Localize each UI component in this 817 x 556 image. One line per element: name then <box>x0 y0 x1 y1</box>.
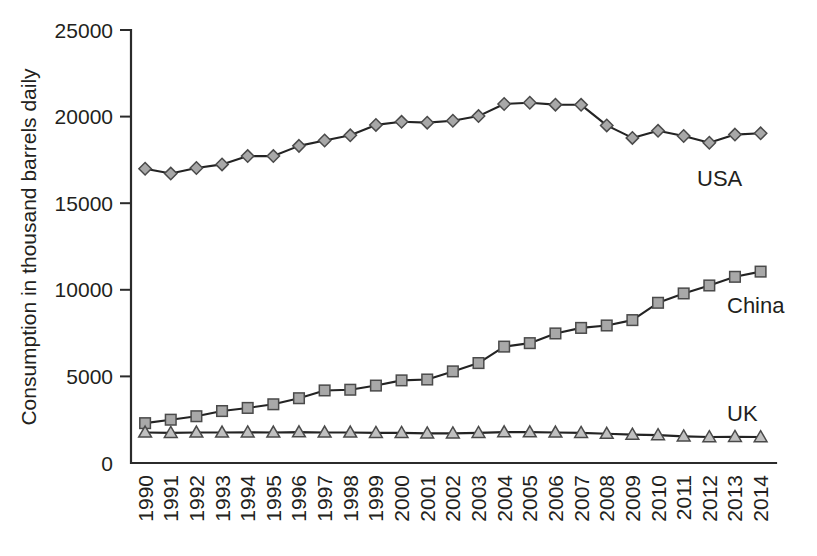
series-labels: USAChinaUK <box>697 166 785 426</box>
x-tick-label: 2007 <box>570 475 593 522</box>
data-point-marker <box>755 266 766 277</box>
data-point-marker <box>677 130 689 142</box>
data-point-marker <box>396 375 407 386</box>
series-line <box>145 272 761 424</box>
y-tick-label: 0 <box>101 452 113 475</box>
x-tick-label: 2008 <box>595 475 618 522</box>
x-tick-label: 2003 <box>467 475 490 522</box>
series-usa <box>139 97 767 180</box>
x-tick-label: 1999 <box>364 475 387 522</box>
data-point-marker <box>754 127 766 139</box>
y-tick-label: 15000 <box>55 192 113 215</box>
data-point-marker <box>653 297 664 308</box>
data-point-marker <box>472 110 484 122</box>
x-axis-ticks: 1990199119921993199419951996199719981999… <box>134 475 773 522</box>
data-point-marker <box>524 338 535 349</box>
data-point-marker <box>421 116 433 128</box>
axis-lines <box>131 30 776 463</box>
y-axis-title: Consumption in thousand barrels daily <box>17 68 40 426</box>
x-tick-label: 2012 <box>698 475 721 522</box>
x-tick-label: 2004 <box>493 475 516 522</box>
data-point-marker <box>318 134 330 146</box>
x-tick-label: 2014 <box>749 475 772 522</box>
data-point-marker <box>422 374 433 385</box>
data-point-marker <box>268 399 279 410</box>
chart-page: 0500010000150002000025000 19901991199219… <box>0 0 817 556</box>
data-point-marker <box>524 97 536 109</box>
x-tick-label: 2001 <box>416 475 439 522</box>
data-point-marker <box>165 167 177 179</box>
data-point-marker <box>294 393 305 404</box>
data-point-marker <box>242 403 253 414</box>
data-point-marker <box>216 158 228 170</box>
x-tick-label: 2009 <box>621 475 644 522</box>
series-china <box>140 266 766 428</box>
x-tick-label: 1995 <box>262 475 285 522</box>
data-point-marker <box>550 328 561 339</box>
data-point-marker <box>190 162 202 174</box>
y-tick-label: 20000 <box>55 105 113 128</box>
data-point-marker <box>627 315 638 326</box>
y-tick-label: 5000 <box>66 365 113 388</box>
x-tick-label: 1996 <box>287 475 310 522</box>
y-tick-label: 10000 <box>55 278 113 301</box>
x-tick-label: 2002 <box>441 475 464 522</box>
x-tick-label: 1992 <box>185 475 208 522</box>
x-tick-label: 2013 <box>723 475 746 522</box>
data-point-marker <box>370 119 382 131</box>
data-point-marker <box>395 116 407 128</box>
series-uk <box>139 426 767 442</box>
x-tick-label: 1997 <box>313 475 336 522</box>
axes <box>131 30 776 463</box>
series-line <box>145 103 761 174</box>
data-point-marker <box>139 163 151 175</box>
data-point-marker <box>217 406 228 417</box>
x-tick-label: 1998 <box>339 475 362 522</box>
series-container <box>139 97 767 442</box>
x-tick-label: 1993 <box>211 475 234 522</box>
data-point-marker <box>473 358 484 369</box>
y-tick-label: 25000 <box>55 19 113 42</box>
series-label-china: China <box>727 293 785 318</box>
x-tick-label: 1991 <box>159 475 182 522</box>
series-label-usa: USA <box>697 166 743 191</box>
data-point-marker <box>704 280 715 291</box>
data-point-marker <box>703 137 715 149</box>
data-point-marker <box>447 115 459 127</box>
series-label-uk: UK <box>727 401 758 426</box>
data-point-marker <box>345 384 356 395</box>
data-point-marker <box>652 125 664 137</box>
data-point-marker <box>293 140 305 152</box>
x-tick-label: 2010 <box>647 475 670 522</box>
data-point-marker <box>499 341 510 352</box>
x-tick-label: 1990 <box>134 475 157 522</box>
line-chart: 0500010000150002000025000 19901991199219… <box>0 0 817 556</box>
data-point-marker <box>241 150 253 162</box>
data-point-marker <box>576 323 587 334</box>
data-point-marker <box>730 272 741 283</box>
data-point-marker <box>678 288 689 299</box>
data-point-marker <box>601 320 612 331</box>
data-point-marker <box>267 150 279 162</box>
x-tick-label: 2005 <box>518 475 541 522</box>
x-tick-label: 2006 <box>544 475 567 522</box>
data-point-marker <box>549 98 561 110</box>
data-point-marker <box>165 414 176 425</box>
x-tick-label: 2011 <box>672 475 695 520</box>
y-axis-ticks: 0500010000150002000025000 <box>55 19 131 475</box>
data-point-marker <box>191 411 202 422</box>
data-point-marker <box>319 385 330 396</box>
x-tick-label: 2000 <box>390 475 413 522</box>
x-tick-label: 1994 <box>236 475 259 522</box>
data-point-marker <box>344 129 356 141</box>
data-point-marker <box>729 128 741 140</box>
data-point-marker <box>371 380 382 391</box>
data-point-marker <box>448 366 459 377</box>
data-point-marker <box>626 132 638 144</box>
data-point-marker <box>498 98 510 110</box>
